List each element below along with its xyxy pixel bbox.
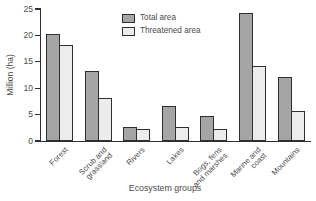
bar-total-area-forest	[46, 34, 60, 141]
bar-threatened-area-bogs-fens-and-marshes	[213, 129, 227, 141]
bar-total-area-lakes	[162, 106, 176, 141]
legend-item-threatened-area: Threatened area	[122, 26, 201, 36]
legend-swatch-threatened-area	[122, 27, 135, 36]
legend-swatch-total-area	[122, 14, 135, 23]
legend-item-total-area: Total area	[122, 13, 201, 23]
y-tick-label-0: 0	[13, 137, 33, 146]
y-tick-mark-25	[35, 8, 41, 9]
bar-chart-figure: Million (ha) 0510152025ForestScrub and g…	[0, 0, 316, 201]
y-tick-label-25: 25	[13, 5, 33, 14]
x-axis-title: Ecosystem groups	[40, 183, 290, 193]
bar-total-area-marine-and-coast	[239, 13, 253, 141]
bar-total-area-rivers	[123, 127, 137, 141]
y-tick-label-5: 5	[13, 110, 33, 119]
bar-total-area-mountains	[278, 77, 292, 141]
y-tick-mark-5	[35, 114, 41, 115]
y-tick-label-10: 10	[13, 84, 33, 93]
y-tick-label-20: 20	[13, 31, 33, 40]
y-tick-mark-15	[35, 61, 41, 62]
bar-threatened-area-forest	[59, 45, 73, 141]
bar-threatened-area-scrub-and-grassland	[98, 98, 112, 141]
bar-threatened-area-mountains	[291, 111, 305, 141]
y-tick-mark-20	[35, 35, 41, 36]
legend: Total area Threatened area	[122, 13, 201, 39]
legend-label-threatened-area: Threatened area	[140, 26, 201, 36]
bar-total-area-bogs-fens-and-marshes	[200, 116, 214, 141]
bar-total-area-scrub-and-grassland	[85, 71, 99, 141]
y-tick-mark-10	[35, 88, 41, 89]
legend-label-total-area: Total area	[140, 13, 176, 23]
bar-threatened-area-marine-and-coast	[252, 66, 266, 141]
y-tick-label-15: 15	[13, 57, 33, 66]
y-tick-mark-0	[35, 140, 41, 141]
bar-threatened-area-rivers	[136, 129, 150, 141]
bar-threatened-area-lakes	[175, 127, 189, 141]
